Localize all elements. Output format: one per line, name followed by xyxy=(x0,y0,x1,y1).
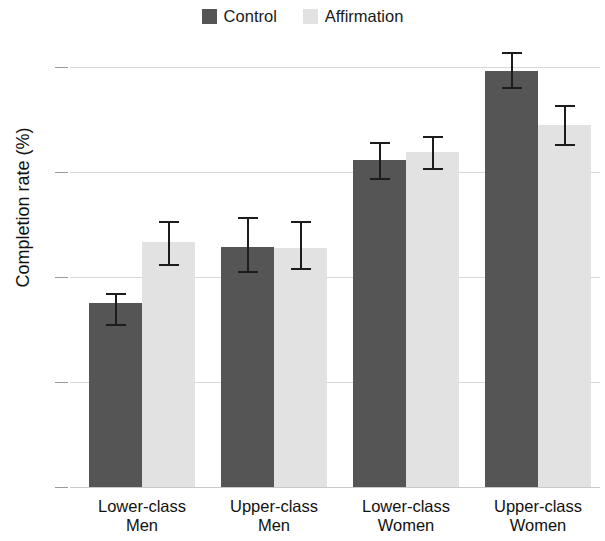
error-bar-cap-bottom xyxy=(370,178,390,180)
y-axis-tick-mark xyxy=(55,382,68,383)
error-bar xyxy=(142,221,195,266)
error-bar-stem xyxy=(168,221,170,266)
error-bar-cap-bottom xyxy=(423,168,443,170)
error-bar-cap-top xyxy=(106,293,126,295)
x-axis-label-line: Women xyxy=(472,516,604,535)
x-axis-category-label: Upper-classMen xyxy=(208,497,340,536)
error-bar-cap-top xyxy=(423,136,443,138)
bar-chart: Control Affirmation Completion rate (%) … xyxy=(0,0,605,541)
error-bar-stem xyxy=(115,293,117,326)
x-axis-label-line: Lower-class xyxy=(340,497,472,516)
bar xyxy=(89,303,142,487)
error-bar xyxy=(274,221,327,270)
error-bar-cap-bottom xyxy=(159,264,179,266)
y-axis-tick-mark xyxy=(55,487,68,488)
error-bar-cap-bottom xyxy=(238,271,258,273)
error-bar-cap-bottom xyxy=(555,144,575,146)
error-bar xyxy=(485,52,538,88)
y-axis-tick-mark xyxy=(55,67,68,68)
error-bar-cap-top xyxy=(238,217,258,219)
bar xyxy=(485,71,538,487)
legend-label-affirmation: Affirmation xyxy=(325,8,404,25)
x-axis-label-line: Lower-class xyxy=(76,497,208,516)
axis-baseline xyxy=(70,487,600,488)
legend-swatch-affirmation xyxy=(303,9,318,24)
legend-item-control: Control xyxy=(202,8,277,25)
error-bar-stem xyxy=(432,136,434,170)
error-bar-cap-bottom xyxy=(291,268,311,270)
error-bar-stem xyxy=(511,52,513,88)
error-bar-cap-top xyxy=(370,142,390,144)
y-axis-tick-mark xyxy=(55,172,68,173)
bar xyxy=(353,160,406,487)
x-axis-label-line: Upper-class xyxy=(472,497,604,516)
error-bar-cap-bottom xyxy=(502,87,522,89)
x-axis-label-line: Men xyxy=(208,516,340,535)
error-bar xyxy=(221,217,274,273)
x-axis-labels: Lower-classMenUpper-classMenLower-classW… xyxy=(70,497,600,541)
error-bar-stem xyxy=(300,221,302,270)
y-axis-title: Completion rate (%) xyxy=(13,48,34,368)
error-bar-cap-bottom xyxy=(106,324,126,326)
error-bar xyxy=(406,136,459,170)
error-bar-cap-top xyxy=(291,221,311,223)
legend-swatch-control xyxy=(202,9,217,24)
error-bar-cap-top xyxy=(502,52,522,54)
chart-legend: Control Affirmation xyxy=(0,8,605,25)
error-bar xyxy=(89,293,142,326)
x-axis-label-line: Men xyxy=(76,516,208,535)
error-bar-stem xyxy=(247,217,249,273)
x-axis-category-label: Upper-classWomen xyxy=(472,497,604,536)
error-bar-cap-top xyxy=(555,105,575,107)
x-axis-category-label: Lower-classWomen xyxy=(340,497,472,536)
error-bar-stem xyxy=(564,105,566,146)
x-axis-category-label: Lower-classMen xyxy=(76,497,208,536)
legend-label-control: Control xyxy=(224,8,277,25)
error-bar-cap-top xyxy=(159,221,179,223)
error-bar-stem xyxy=(379,142,381,180)
bar xyxy=(406,152,459,487)
y-axis-tick-mark xyxy=(55,277,68,278)
bar xyxy=(538,125,591,487)
error-bar xyxy=(353,142,406,180)
x-axis-label-line: Women xyxy=(340,516,472,535)
bar xyxy=(274,248,327,487)
plot-area: 015304560 xyxy=(70,40,600,495)
error-bar xyxy=(538,105,591,146)
bar xyxy=(221,247,274,487)
legend-item-affirmation: Affirmation xyxy=(303,8,404,25)
x-axis-label-line: Upper-class xyxy=(208,497,340,516)
bar xyxy=(142,242,195,487)
